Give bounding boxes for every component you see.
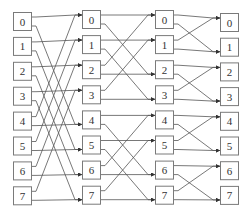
node-box: 4 <box>221 112 239 130</box>
node-label: 0 <box>227 17 233 29</box>
node-box: 2 <box>156 61 174 79</box>
straight-wire <box>32 175 82 176</box>
node-box: 3 <box>156 86 174 104</box>
node-box: 5 <box>156 136 174 154</box>
straight-wire <box>174 49 220 52</box>
node-label: 5 <box>162 139 168 151</box>
node-box: 0 <box>83 11 101 29</box>
node-box: 6 <box>156 161 174 179</box>
node-box: 1 <box>156 36 174 54</box>
node-box: 6 <box>83 161 101 179</box>
node-label: 4 <box>227 115 233 127</box>
node-label: 4 <box>89 114 95 126</box>
node-label: 2 <box>162 64 168 76</box>
node-box: 5 <box>221 137 239 155</box>
node-label: 4 <box>20 115 26 127</box>
node-box: 3 <box>14 87 32 105</box>
cross-wire <box>174 175 220 200</box>
node-box: 0 <box>221 14 239 32</box>
node-box: 2 <box>221 63 239 81</box>
node-box: 5 <box>83 136 101 154</box>
node-label: 1 <box>227 41 233 53</box>
cross-wire <box>174 166 220 191</box>
cross-wire <box>32 90 82 191</box>
node-box: 7 <box>14 187 32 205</box>
straight-wire <box>32 150 82 151</box>
node-box: 1 <box>83 36 101 54</box>
node-box: 6 <box>14 162 32 180</box>
node-box: 4 <box>156 111 174 129</box>
node-box: 7 <box>221 186 239 204</box>
node-column-3: 01234567 <box>221 14 239 205</box>
node-box: 1 <box>221 38 239 56</box>
node-label: 3 <box>89 89 95 101</box>
node-column-1: 01234567 <box>83 11 101 205</box>
straight-wire <box>174 150 220 151</box>
butterfly-network-diagram: 01234567012345670123456701234567 <box>0 0 251 214</box>
node-label: 1 <box>162 39 168 51</box>
node-column-2: 01234567 <box>156 11 174 205</box>
cross-wire <box>101 24 155 74</box>
node-columns: 01234567012345670123456701234567 <box>14 11 239 205</box>
node-label: 6 <box>89 164 95 176</box>
node-label: 5 <box>227 140 233 152</box>
node-box: 3 <box>83 86 101 104</box>
node-label: 3 <box>20 90 26 102</box>
straight-wire <box>174 15 220 18</box>
cross-wire <box>174 124 220 150</box>
cross-wire <box>101 141 155 191</box>
cross-wire <box>174 117 220 141</box>
node-label: 2 <box>89 64 95 76</box>
node-label: 7 <box>162 189 168 201</box>
node-label: 5 <box>89 139 95 151</box>
node-label: 0 <box>89 14 95 26</box>
node-label: 0 <box>162 14 168 26</box>
cross-wire <box>32 65 82 166</box>
node-label: 3 <box>162 89 168 101</box>
node-label: 0 <box>20 16 26 28</box>
node-box: 4 <box>83 111 101 129</box>
node-label: 3 <box>227 91 233 103</box>
node-box: 1 <box>14 37 32 55</box>
cross-wire <box>174 18 220 40</box>
straight-wire <box>32 124 82 125</box>
node-box: 0 <box>14 13 32 31</box>
node-label: 7 <box>227 189 233 201</box>
node-label: 2 <box>227 66 233 78</box>
node-column-0: 01234567 <box>14 13 32 205</box>
node-box: 3 <box>221 88 239 106</box>
node-box: 4 <box>14 112 32 130</box>
node-label: 6 <box>162 164 168 176</box>
node-box: 2 <box>83 61 101 79</box>
node-box: 2 <box>14 62 32 80</box>
node-box: 7 <box>83 186 101 204</box>
node-box: 5 <box>14 137 32 155</box>
cross-wire <box>174 67 220 90</box>
node-label: 1 <box>89 39 95 51</box>
node-label: 4 <box>162 114 168 126</box>
cross-wire <box>101 40 155 90</box>
connection-wires <box>32 15 220 200</box>
node-box: 0 <box>156 11 174 29</box>
node-label: 6 <box>227 165 233 177</box>
node-label: 7 <box>89 189 95 201</box>
node-box: 7 <box>156 186 174 204</box>
straight-wire <box>32 200 82 201</box>
node-box: 6 <box>221 162 239 180</box>
node-label: 1 <box>20 40 26 52</box>
cross-wire <box>101 124 155 174</box>
node-label: 6 <box>20 165 26 177</box>
node-label: 5 <box>20 140 26 152</box>
node-label: 7 <box>20 190 26 202</box>
node-label: 2 <box>20 65 26 77</box>
straight-wire <box>174 99 220 101</box>
